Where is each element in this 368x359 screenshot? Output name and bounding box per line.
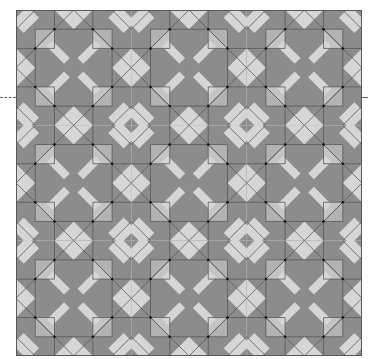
quilt-pattern <box>16 10 362 356</box>
dashed-guide-line-right <box>362 97 368 98</box>
dashed-guide-line-left <box>0 97 16 98</box>
